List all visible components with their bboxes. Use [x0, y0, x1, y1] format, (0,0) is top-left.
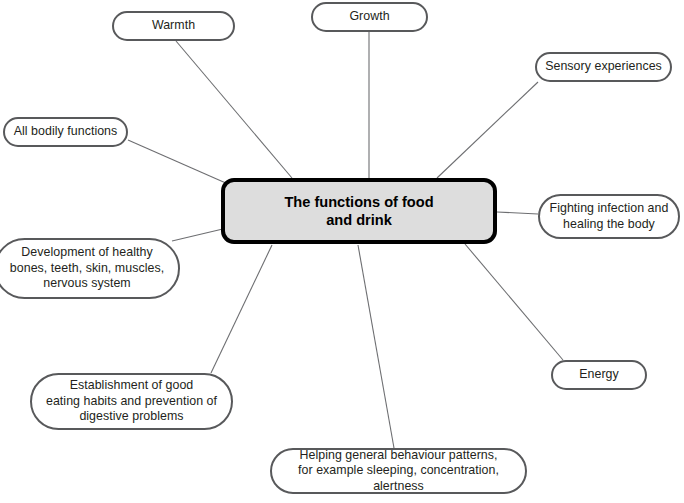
- edge-all-bodily-functions: [128, 140, 228, 184]
- central-node: The functions of food and drink: [221, 178, 497, 244]
- node-development-of-healthy-label: Development of healthy bones, teeth, ski…: [10, 245, 164, 291]
- edge-development-of-healthy: [172, 228, 227, 241]
- node-establishment-of-good-eating-habits-label: Establishment of good eating habits and …: [46, 378, 217, 424]
- node-fighting-infection-label: Fighting infection and healing the body: [550, 201, 669, 232]
- node-fighting-infection: Fighting infection and healing the body: [538, 194, 680, 239]
- mind-map-diagram: The functions of food and drink Warmth G…: [0, 0, 684, 503]
- edge-helping-general-behaviour: [358, 245, 394, 448]
- edge-sensory-experiences: [437, 82, 538, 178]
- edge-warmth: [176, 41, 292, 178]
- node-energy: Energy: [551, 360, 647, 390]
- node-warmth: Warmth: [112, 11, 235, 41]
- node-growth: Growth: [311, 2, 428, 32]
- node-development-of-healthy: Development of healthy bones, teeth, ski…: [0, 238, 180, 299]
- node-establishment-of-good-eating-habits: Establishment of good eating habits and …: [30, 373, 233, 430]
- node-helping-general-behaviour: Helping general behaviour patterns, for …: [270, 448, 527, 494]
- node-all-bodily-functions-label: All bodily functions: [14, 124, 118, 139]
- edge-fighting-infection: [497, 212, 538, 214]
- edge-establishment-of-good-eating-habits: [211, 245, 272, 373]
- node-energy-label: Energy: [579, 367, 619, 382]
- central-node-label: The functions of food and drink: [284, 193, 433, 230]
- node-sensory-experiences-label: Sensory experiences: [545, 59, 662, 74]
- node-sensory-experiences: Sensory experiences: [535, 52, 672, 82]
- node-all-bodily-functions: All bodily functions: [3, 117, 128, 147]
- node-helping-general-behaviour-label: Helping general behaviour patterns, for …: [280, 448, 517, 494]
- node-warmth-label: Warmth: [152, 18, 195, 33]
- edge-energy: [465, 244, 563, 360]
- node-growth-label: Growth: [349, 9, 389, 24]
